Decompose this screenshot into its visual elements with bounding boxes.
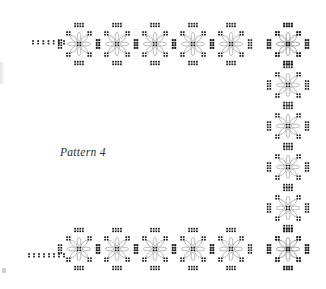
scan-edge-smudge: [0, 62, 5, 84]
floral-border-pattern: [0, 0, 326, 289]
scan-edge-mark: [2, 268, 6, 273]
pattern-page: Pattern 4: [0, 0, 326, 289]
pattern-caption: Pattern 4: [60, 146, 106, 158]
